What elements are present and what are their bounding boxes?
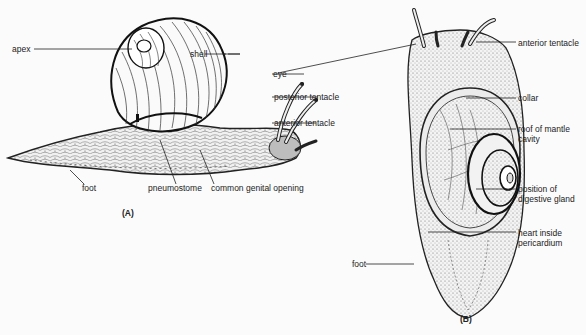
label-eye: eye [273, 69, 287, 79]
label-pneumostome: pneumostome [148, 183, 202, 193]
label-collar: collar [518, 93, 538, 103]
label-heart-inside-pericardium: heart inside pericardium [518, 228, 562, 248]
label-line-2: pericardium [518, 238, 562, 248]
snail-b-drawing [278, 10, 524, 318]
label-shell: shell [190, 49, 207, 59]
snail-anatomy-figure: apex shell eye posterior tentacle anteri… [0, 0, 586, 335]
label-line-2: digestive gland [518, 194, 575, 204]
panel-label-b: (B) [460, 314, 472, 324]
label-apex: apex [12, 44, 30, 54]
label-common-genital-opening: common genital opening [211, 183, 304, 193]
label-line-1: position of [518, 184, 557, 194]
label-posterior-tentacle: posterior tentacle [274, 92, 339, 102]
label-anterior-tentacle-a: anterior tentacle [274, 118, 335, 128]
label-position-of-digestive-gland: position of digestive gland [518, 184, 575, 204]
snail-a-drawing [8, 18, 318, 184]
label-anterior-tentacle-b: anterior tentacle [518, 38, 579, 48]
panel-label-a: (A) [122, 208, 134, 218]
snail-a-shell [111, 18, 226, 132]
label-line-1: heart inside [518, 228, 562, 238]
label-roof-of-mantle-cavity: roof of mantle cavity [518, 124, 570, 144]
label-foot-b: foot [352, 259, 366, 269]
label-line-1: roof of mantle [518, 124, 570, 134]
snail-illustrations [0, 0, 586, 335]
label-foot-a: foot [82, 183, 96, 193]
label-line-2: cavity [518, 134, 540, 144]
